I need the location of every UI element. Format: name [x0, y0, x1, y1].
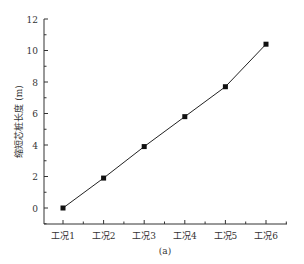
chart-svg: 024681012工况1工况2工况3工况4工况5工况6缩短芯桩长度 (m)(a)	[0, 0, 304, 264]
axes	[44, 19, 287, 224]
x-tick-label: 工况6	[254, 231, 278, 241]
data-point-marker	[223, 84, 228, 89]
y-tick-label: 4	[32, 141, 38, 151]
data-point-marker	[61, 206, 66, 211]
x-tick-label: 工况3	[132, 231, 156, 241]
labels: 024681012工况1工况2工况3工况4工况5工况6缩短芯桩长度 (m)(a)	[13, 15, 278, 257]
y-tick-label: 0	[32, 204, 38, 214]
data-point-marker	[101, 176, 106, 181]
x-tick-label: 工况2	[92, 231, 116, 241]
y-tick-label: 12	[27, 15, 38, 25]
data-point-marker	[142, 144, 147, 149]
x-tick-label: 工况4	[173, 231, 197, 241]
series-line	[63, 44, 266, 208]
y-tick-label: 8	[32, 78, 38, 88]
data-point-marker	[264, 42, 269, 47]
x-tick-label: 工况5	[214, 231, 238, 241]
y-axis-label: 缩短芯桩长度 (m)	[13, 85, 24, 157]
y-tick-label: 6	[32, 109, 38, 119]
line-chart: 024681012工况1工况2工况3工况4工况5工况6缩短芯桩长度 (m)(a)	[0, 0, 304, 264]
y-tick-label: 2	[32, 172, 38, 182]
data-point-marker	[182, 114, 187, 119]
data-series	[61, 42, 269, 211]
figure-caption: (a)	[159, 246, 171, 256]
x-tick-label: 工况1	[51, 231, 75, 241]
y-tick-label: 10	[27, 46, 39, 56]
